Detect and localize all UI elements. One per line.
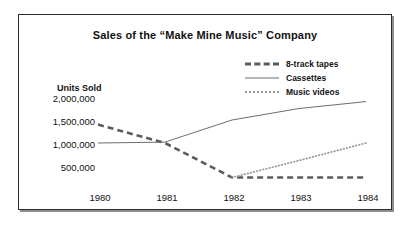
x-axis-tick-1983: 1983 [281, 192, 321, 203]
legend-swatch-solid-icon [245, 74, 279, 82]
legend-label: 8-track tapes [286, 59, 338, 69]
y-axis-title: Units Sold [57, 83, 102, 93]
x-axis-tick-1982: 1982 [214, 192, 254, 203]
legend-item-cassettes: Cassettes [245, 71, 377, 85]
x-axis-tick-1980: 1980 [80, 192, 120, 203]
y-axis-tick-1500000: 1,500,000 [33, 116, 95, 127]
legend-item-8-track-tapes: 8-track tapes [245, 57, 377, 71]
y-axis-tick-2000000: 2,000,000 [33, 93, 95, 104]
y-axis-tick-500000: 500,000 [33, 162, 95, 173]
legend-label: Music videos [286, 87, 339, 97]
y-axis-tick-1000000: 1,000,000 [33, 139, 95, 150]
chart-legend: 8-track tapes Cassettes Music videos [245, 57, 377, 99]
legend-item-music-videos: Music videos [245, 85, 377, 99]
x-axis-tick-1981: 1981 [147, 192, 187, 203]
legend-swatch-dotted-icon [245, 88, 279, 96]
chart-title: Sales of the “Make Mine Music” Company [19, 29, 391, 41]
legend-swatch-dashed-icon [245, 60, 279, 68]
x-axis-tick-1984: 1984 [348, 192, 388, 203]
chart-frame: Sales of the “Make Mine Music” Company 8… [18, 14, 392, 210]
legend-label: Cassettes [286, 73, 326, 83]
